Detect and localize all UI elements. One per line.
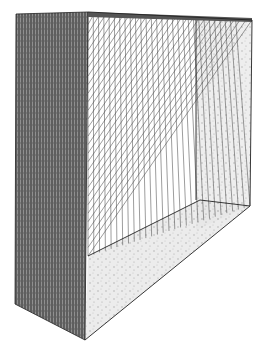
left-side-face: [15, 12, 88, 340]
string-art-box-illustration: [0, 0, 272, 352]
inner-floor: [85, 200, 250, 340]
